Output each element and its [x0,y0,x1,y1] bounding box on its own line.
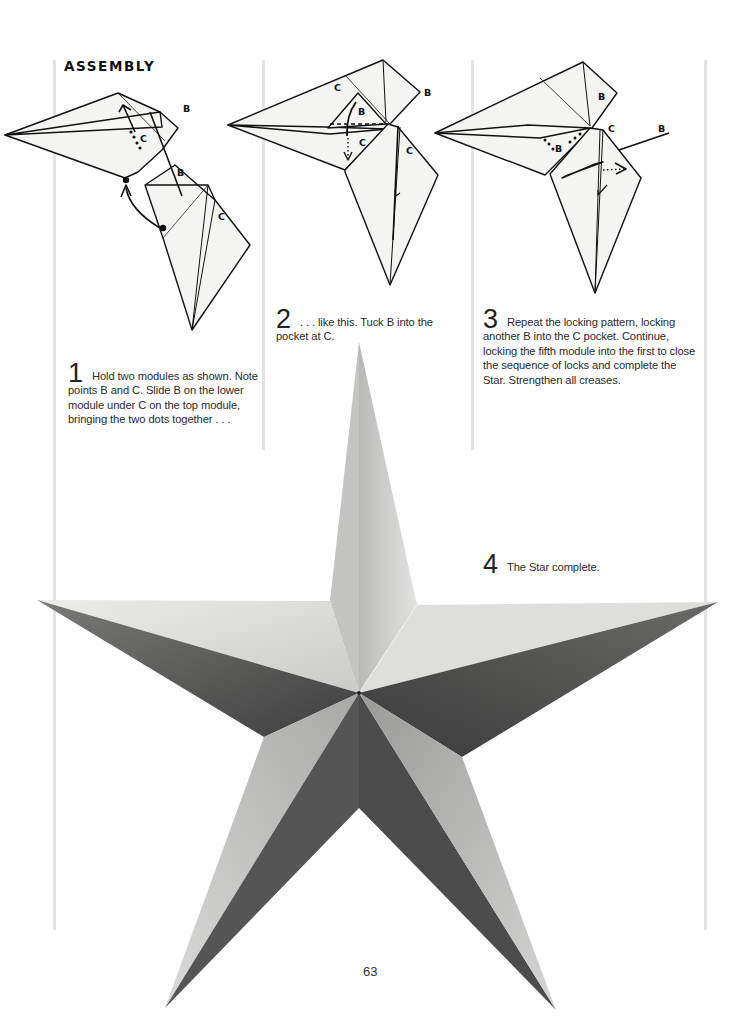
step-2-caption: 2. . . like this. Tuck B into the pocket… [276,309,456,344]
step-4-text: The Star complete. [507,561,600,573]
step3-diagram [435,62,669,293]
step1-label-b-lower: B [177,167,184,178]
step1-diagram [5,93,250,330]
lower-module-shape [145,165,250,330]
step1-label-c-lower: C [218,211,225,222]
step2-label-c-lower: C [406,145,413,156]
top-module-shape [5,93,178,178]
step2-label-b-right: B [424,87,431,98]
step1-label-b-top: B [183,103,190,114]
step-2-text: . . . like this. Tuck B into the pocket … [276,316,433,342]
step-1-caption: 1Hold two modules as shown. Note points … [68,363,258,427]
step-3-caption: 3Repeat the locking pattern, locking ano… [483,309,698,387]
step-3-text: Repeat the locking pattern, locking anot… [483,316,695,386]
step2-label-c-top: C [334,82,341,93]
step-1-text: Hold two modules as shown. Note points B… [68,370,258,425]
step2-diagram [228,60,438,285]
star-bottom-left-inner-face [165,693,359,1008]
step2-label-b-inner: B [358,106,365,117]
step3-label-c: C [608,123,615,134]
diagrams-layer: B C B C C B B C C B C B B [0,0,731,1027]
step3-label-b-top: B [598,91,605,102]
step-4-caption: 4The Star complete. [483,554,683,574]
step3-label-b-right: B [658,123,665,134]
page-number: 63 [363,964,377,979]
completed-star-image [37,342,718,1010]
step1-label-c-top: C [140,133,147,144]
step-4-number: 4 [483,549,498,579]
step3-label-b-inner: B [555,143,562,154]
step2-label-c-inner: C [359,137,366,148]
